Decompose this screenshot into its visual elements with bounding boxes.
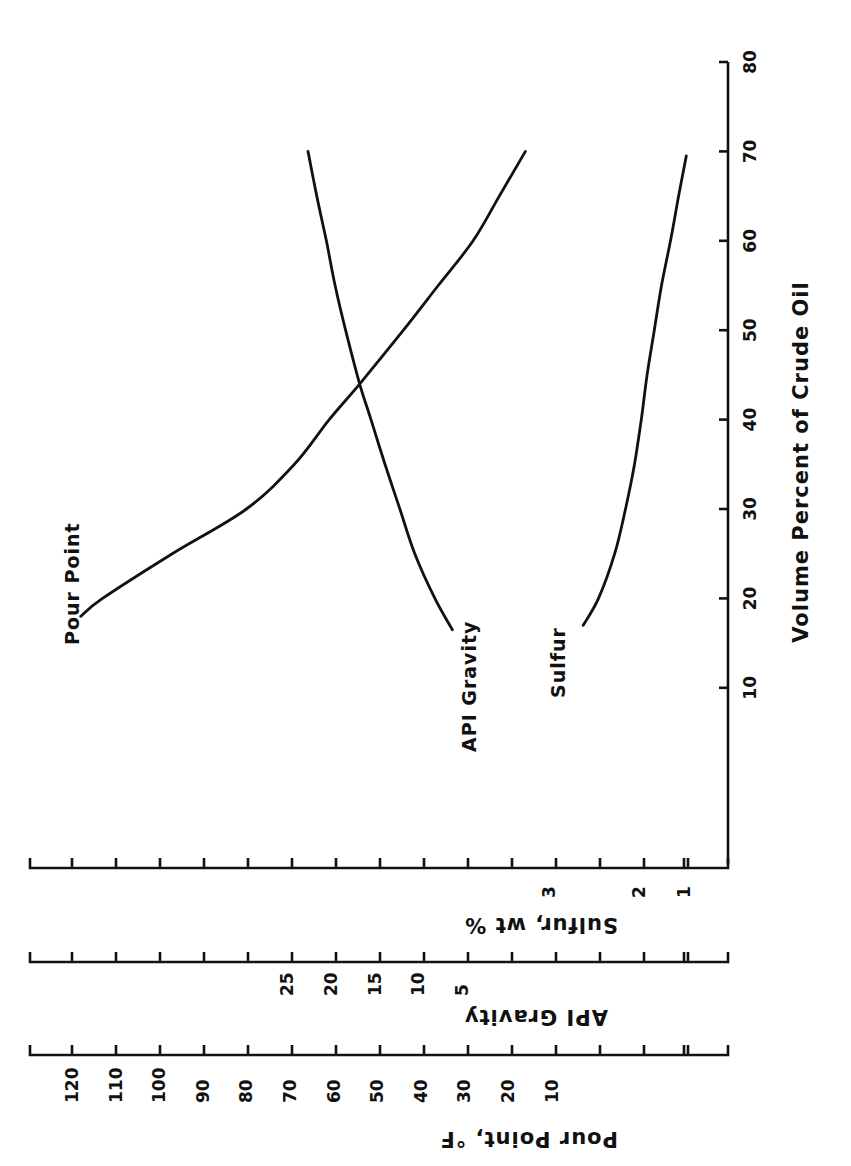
x-tick-label: 20 [740,586,760,610]
api-axis-title: API Gravity [464,1005,608,1029]
axis-tick-label: 10 [408,972,428,996]
axis-tick-label: 15 [365,972,385,996]
x-axis-ticks: 1020304050607080 [719,50,760,700]
x-tick-label: 70 [740,139,760,163]
x-tick-label: 60 [740,229,760,253]
axis-tick-label: 70 [280,1079,300,1103]
axis-tick-label: 60 [324,1079,344,1103]
pour-point-curve-label: Pour Point [61,522,83,645]
axis-tick-label: 1 [674,886,694,898]
axis-tick-label: 100 [149,1067,169,1103]
x-tick-label: 80 [740,50,760,74]
axis-tick-label: 30 [454,1079,474,1103]
api-axis: 252015105 API Gravity [30,952,728,1029]
axis-tick-label: 3 [539,886,559,898]
axis-tick-label: 50 [367,1079,387,1103]
crude-oil-properties-chart: 1020304050607080 Volume Percent of Crude… [0,0,851,1166]
x-tick-label: 40 [740,408,760,432]
api-gravity-curve [308,151,452,629]
x-tick-label: 30 [740,497,760,521]
x-axis: 1020304050607080 Volume Percent of Crude… [719,50,813,864]
axis-tick-label: 2 [629,886,649,898]
axis-tick-label: 110 [106,1067,126,1103]
x-axis-title: Volume Percent of Crude Oil [789,281,813,643]
axis-tick-label: 20 [498,1079,518,1103]
api-axis-ticks: 252015105 [72,952,688,996]
sulfur-axis-title: Sulfur, wt % [464,913,618,937]
sulfur-curve [583,156,686,625]
sulfur-curve-label: Sulfur [547,627,569,698]
x-tick-label: 50 [740,318,760,342]
axis-tick-label: 25 [277,972,297,996]
curves [81,151,687,629]
axis-tick-label: 20 [321,972,341,996]
axis-tick-label: 120 [62,1067,82,1103]
sulfur-axis-ticks: 321 [72,858,694,898]
axis-tick-label: 10 [542,1079,562,1103]
pour-point-axis: 120110100908070605040302010 Pour Point, … [30,1045,728,1151]
pour-point-curve [81,151,526,616]
axis-tick-label: 90 [193,1079,213,1103]
axis-tick-label: 80 [236,1079,256,1103]
api-gravity-curve-label: API Gravity [458,621,480,752]
sulfur-axis: 321 Sulfur, wt % [30,858,728,937]
axis-tick-label: 40 [411,1079,431,1103]
axis-tick-label: 5 [452,984,472,996]
pour-axis-title: Pour Point, °F [439,1127,618,1151]
x-tick-label: 10 [740,676,760,700]
